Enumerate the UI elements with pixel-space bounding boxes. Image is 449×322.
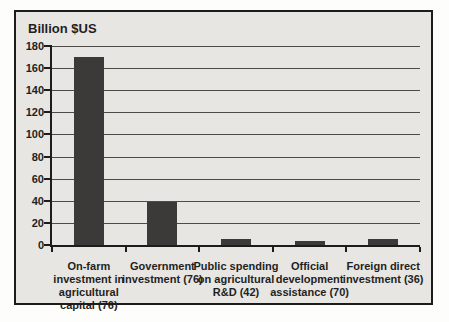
gridline-180: [52, 46, 420, 47]
y-tick-label-140: 140: [16, 85, 44, 96]
bar-3: [295, 241, 325, 245]
bar-4: [368, 239, 398, 245]
bar-1: [147, 202, 177, 245]
x-tick-mark-4: [345, 247, 347, 252]
y-tick-label-100: 100: [16, 129, 44, 140]
y-tick-mark-100: [44, 133, 52, 135]
x-category-label-4: Foreign direct investment (36): [335, 260, 431, 286]
y-tick-label-160: 160: [16, 63, 44, 74]
x-tick-mark-5: [419, 247, 421, 252]
x-tick-mark-0: [51, 247, 53, 252]
y-tick-mark-60: [44, 178, 52, 180]
y-tick-label-120: 120: [16, 107, 44, 118]
gridline-60: [52, 179, 420, 180]
x-tick-mark-2: [198, 247, 200, 252]
chart-frame: Billion $US 020406080100120140160180 On-…: [14, 10, 433, 305]
plot-area: [50, 46, 420, 247]
x-tick-mark-3: [272, 247, 274, 252]
y-tick-label-80: 80: [16, 151, 44, 162]
chart-title: Billion $US: [28, 21, 97, 36]
bar-0: [74, 57, 104, 245]
gridline-100: [52, 134, 420, 135]
gridline-160: [52, 68, 420, 69]
y-tick-label-60: 60: [16, 173, 44, 184]
gridline-80: [52, 157, 420, 158]
y-tick-mark-140: [44, 89, 52, 91]
y-tick-label-180: 180: [16, 41, 44, 52]
x-axis-labels: On-farm investment in agricultural capit…: [52, 253, 420, 303]
y-tick-label-0: 0: [16, 240, 44, 251]
figure: Billion $US 020406080100120140160180 On-…: [0, 0, 449, 322]
y-tick-mark-160: [44, 67, 52, 69]
y-axis-labels: 020406080100120140160180: [16, 46, 44, 245]
y-tick-mark-40: [44, 200, 52, 202]
y-tick-mark-120: [44, 111, 52, 113]
gridline-40: [52, 201, 420, 202]
y-tick-mark-20: [44, 222, 52, 224]
y-tick-mark-180: [44, 45, 52, 47]
bar-2: [221, 239, 251, 245]
gridline-20: [52, 223, 420, 224]
y-tick-mark-80: [44, 156, 52, 158]
gridline-140: [52, 90, 420, 91]
y-tick-label-20: 20: [16, 217, 44, 228]
y-tick-label-40: 40: [16, 195, 44, 206]
gridline-120: [52, 112, 420, 113]
x-tick-mark-1: [125, 247, 127, 252]
y-tick-mark-0: [44, 244, 52, 246]
